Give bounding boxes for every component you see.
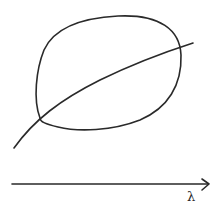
diagram-canvas <box>0 0 219 213</box>
closed-loop <box>36 16 181 130</box>
axis-label: λ <box>187 189 195 204</box>
